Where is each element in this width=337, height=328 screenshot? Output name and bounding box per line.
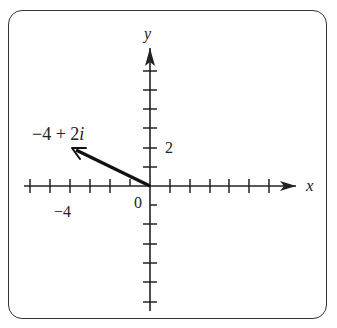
imaginary-unit: i <box>79 124 84 144</box>
y-tick-label: 2 <box>165 140 173 156</box>
vector-label-text: −4 + 2i <box>32 124 84 144</box>
x-axis-label: x <box>306 177 314 194</box>
x-tick-label: −4 <box>54 204 71 220</box>
vector-label: −4 + 2i <box>32 125 84 143</box>
vector-line <box>76 150 150 186</box>
complex-plane <box>0 0 337 328</box>
origin-label: 0 <box>134 195 142 211</box>
y-axis-label: y <box>144 26 151 42</box>
